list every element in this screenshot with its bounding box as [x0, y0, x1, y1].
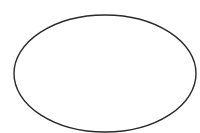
ellipse-shape — [14, 15, 196, 132]
diagram-canvas — [0, 0, 200, 133]
